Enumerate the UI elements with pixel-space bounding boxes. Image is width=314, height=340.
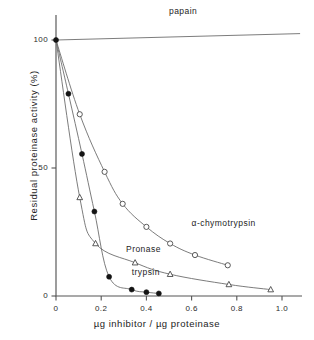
datapoint-trypsin-5	[129, 287, 134, 292]
x-tick-label-0.8: 0.8	[225, 304, 249, 313]
datapoint-trypsin-3	[92, 209, 97, 214]
datapoint-trypsin-7	[156, 291, 161, 296]
datapoint--chymotrypsin-3	[120, 201, 125, 206]
datapoint-trypsin-6	[144, 290, 149, 295]
y-tick-label-0: 0	[26, 291, 48, 300]
axis-lines	[56, 15, 302, 296]
curve-trypsin	[56, 40, 159, 293]
datapoint--chymotrypsin-1	[77, 112, 82, 117]
x-tick-label-0.4: 0.4	[134, 304, 158, 313]
x-tick-label-0.6: 0.6	[180, 304, 204, 313]
datapoint--chymotrypsin-2	[102, 169, 107, 174]
chart-figure: Residual proteinase activity (%) µg inhi…	[0, 0, 314, 340]
datapoint--chymotrypsin-7	[225, 263, 230, 268]
x-tick-label-1.0: 1.0	[270, 304, 294, 313]
curve-papain	[56, 34, 300, 40]
series-label-chymotrypsin: α-chymotrypsin	[192, 218, 256, 228]
datapoint--chymotrypsin-4	[144, 224, 149, 229]
datapoint-trypsin-1	[66, 91, 71, 96]
x-tick-label-0: 0	[44, 304, 68, 313]
curve-pronase	[56, 40, 271, 290]
series-label-trypsin: trypsin	[132, 267, 160, 277]
datapoint--chymotrypsin-5	[168, 241, 173, 246]
y-tick-label-50: 50	[26, 163, 48, 172]
x-tick-label-0.2: 0.2	[89, 304, 113, 313]
x-axis-title: µg inhibitor / µg proteinase	[0, 318, 314, 329]
series-label-pronase: Pronase	[126, 244, 161, 254]
datapoint-trypsin-4	[107, 274, 112, 279]
series-label-papain: papain	[169, 6, 197, 16]
datapoint-pronase-1	[77, 194, 83, 199]
datapoint-trypsin-0	[54, 38, 59, 43]
y-axis-title: Residual proteinase activity (%)	[28, 21, 39, 271]
y-tick-label-100: 100	[26, 35, 48, 44]
datapoint-trypsin-2	[79, 151, 84, 156]
datapoint--chymotrypsin-6	[192, 252, 197, 257]
